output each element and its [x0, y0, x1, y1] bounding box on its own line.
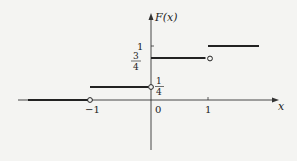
x-tick-label-neg1: −1 [85, 104, 100, 115]
cdf-step-chart: F(x) x 0 −1 1 1 3 4 1 4 [0, 0, 297, 161]
y-tick-label-quarter-num: 1 [156, 76, 162, 86]
y-axis-arrow-icon [149, 13, 154, 20]
open-point-0 [149, 85, 154, 90]
y-tick-label-quarter-den: 4 [156, 87, 162, 97]
open-point-1 [208, 56, 213, 61]
x-tick-label-1: 1 [205, 104, 211, 115]
y-tick-label-three-quarter-den: 4 [133, 62, 139, 72]
y-tick-label-three-quarter-num: 3 [133, 51, 139, 61]
x-axis-label: x [278, 100, 285, 113]
open-point-neg1 [88, 98, 93, 103]
y-axis-label: F(x) [154, 11, 177, 24]
origin-label: 0 [155, 104, 161, 115]
